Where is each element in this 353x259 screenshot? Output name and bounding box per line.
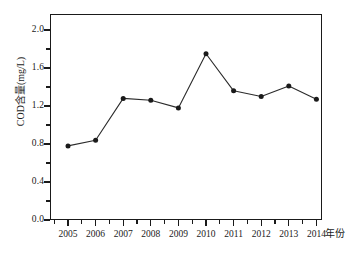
- y-axis-tick-minor: [46, 162, 50, 163]
- y-axis-tick-label: 0.0: [32, 215, 44, 225]
- plot-frame: [50, 14, 322, 220]
- y-axis-tick-label: 1.2: [32, 101, 44, 111]
- x-axis-tick-major: [67, 220, 68, 226]
- x-axis-tick-minor: [164, 220, 165, 224]
- x-axis-tick-major: [150, 220, 151, 226]
- x-axis-tick-major: [95, 220, 96, 226]
- y-axis-tick-label: 0.8: [32, 139, 44, 149]
- y-axis-tick-major: [44, 105, 50, 106]
- x-axis-tick-major: [316, 220, 317, 226]
- x-axis-tick-label: 2014: [296, 229, 336, 239]
- x-axis-tick-major: [205, 220, 206, 226]
- y-axis-tick-minor: [46, 48, 50, 49]
- x-axis-tick-major: [288, 220, 289, 226]
- y-axis-tick-label: 2.0: [32, 25, 44, 35]
- y-axis-tick-minor: [46, 200, 50, 201]
- y-axis-tick-label: 0.4: [32, 177, 44, 187]
- x-axis-tick-minor: [302, 220, 303, 224]
- y-axis-title: COD含量(mg/L): [15, 32, 26, 152]
- x-axis-tick-minor: [81, 220, 82, 224]
- y-axis-tick-major: [44, 67, 50, 68]
- x-axis-tick-minor: [136, 220, 137, 224]
- x-axis-tick-minor: [247, 220, 248, 224]
- y-axis-tick-minor: [46, 86, 50, 87]
- x-axis-tick-minor: [54, 220, 55, 224]
- y-axis-tick-major: [44, 181, 50, 182]
- x-axis-tick-major: [178, 220, 179, 226]
- y-axis-tick-minor: [46, 124, 50, 125]
- x-axis-tick-minor: [109, 220, 110, 224]
- y-axis-tick-label: 1.6: [32, 63, 44, 73]
- y-axis-tick-major: [44, 219, 50, 220]
- y-axis-tick-major: [44, 29, 50, 30]
- x-axis-tick-major: [123, 220, 124, 226]
- x-axis-tick-major: [233, 220, 234, 226]
- x-axis-tick-minor: [274, 220, 275, 224]
- x-axis-tick-major: [261, 220, 262, 226]
- x-axis-tick-minor: [219, 220, 220, 224]
- x-axis-tick-minor: [192, 220, 193, 224]
- y-axis-tick-major: [44, 143, 50, 144]
- chart-container: COD含量(mg/L) 年份 0.00.40.81.21.62.02005200…: [0, 0, 353, 259]
